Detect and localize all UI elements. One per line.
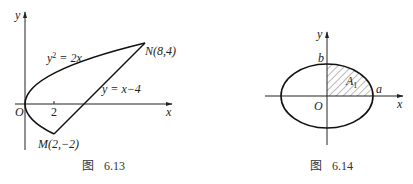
tick-label-2: 2	[51, 105, 57, 119]
x-axis-label: x	[165, 105, 172, 119]
figures-canvas: y x O 2 y2 = 2x y = x−4 N(8,4) M(2,−2) 图…	[0, 0, 413, 184]
semi-minor-label-b: b	[318, 51, 324, 65]
point-M-label: M(2,−2)	[37, 137, 79, 151]
parabola-label: y2 = 2x	[46, 51, 82, 65]
y-axis-label: y	[14, 8, 21, 22]
caption-6-13: 图6.13	[82, 159, 125, 173]
x-axis-label: x	[396, 97, 403, 111]
figure-6-13: y x O 2 y2 = 2x y = x−4 N(8,4) M(2,−2) 图…	[14, 8, 176, 173]
caption-6-14: 图6.14	[310, 159, 353, 173]
line-label: y = x−4	[101, 82, 141, 96]
y-axis-label: y	[316, 27, 323, 41]
figure-6-14: y x O b a A1 图6.14	[265, 27, 403, 173]
origin-label: O	[15, 105, 24, 119]
point-N-label: N(8,4)	[144, 44, 176, 58]
origin-label: O	[314, 99, 323, 113]
semi-major-label-a: a	[376, 82, 382, 96]
